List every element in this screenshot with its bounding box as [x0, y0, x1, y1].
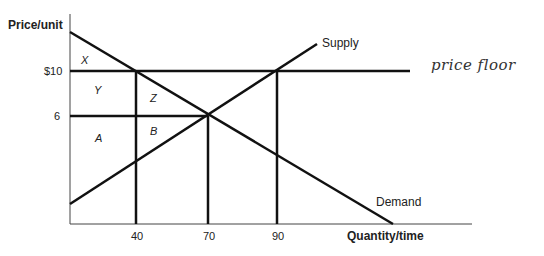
x-axis-label: Quantity/time: [347, 230, 424, 242]
demand-label: Demand: [376, 196, 421, 208]
x-tick-40: 40: [131, 231, 143, 242]
price-floor-annotation: price floor: [431, 58, 516, 73]
supply-label: Supply: [322, 37, 359, 49]
region-z-label: Z: [150, 93, 157, 104]
x-tick-90: 90: [272, 231, 284, 242]
region-a-label: A: [95, 133, 102, 144]
y-tick-6: 6: [54, 111, 60, 122]
region-y-label: Y: [94, 85, 101, 96]
region-b-label: B: [150, 126, 157, 137]
y-axis-label: Price/unit: [8, 19, 63, 31]
supply-demand-diagram: [0, 0, 544, 256]
x-tick-70: 70: [203, 231, 215, 242]
region-x-label: X: [81, 55, 88, 66]
demand-curve: [70, 32, 393, 224]
y-tick-10: $10: [44, 66, 62, 77]
supply-curve: [70, 44, 317, 204]
